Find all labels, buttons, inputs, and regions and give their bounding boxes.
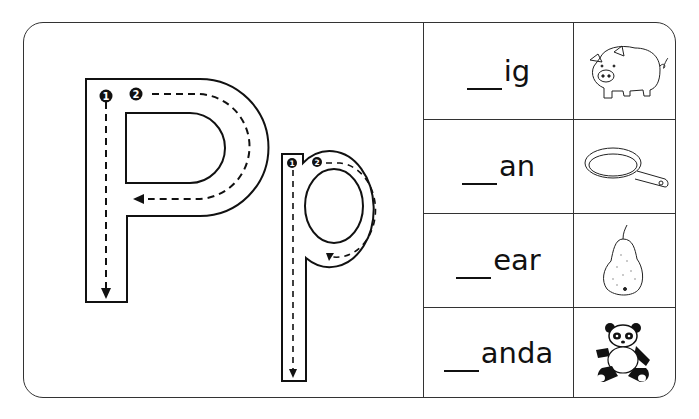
pig-icon [580,36,670,106]
arrow-down-icon [101,288,111,299]
picture-cell-pan [574,120,676,213]
word-cell-pear: ear [424,214,573,307]
picture-cell-pig [574,23,676,119]
svg-text:2: 2 [314,158,319,167]
stroke-number-2-icon: 2 [130,88,143,101]
arrow-down-small-icon [326,253,334,261]
picture-cell-panda [574,308,676,398]
pear-icon [595,221,655,301]
lowercase-p-outline [282,151,374,381]
word-suffix: anda [481,339,553,368]
word-suffix: ig [504,57,530,86]
word-cell-panda: anda [424,308,573,398]
stroke-number-1-icon: 1 [100,90,113,103]
svg-text:1: 1 [103,91,110,102]
stroke-number-1-icon: 1 [287,158,297,168]
svg-text:1: 1 [289,159,294,168]
picture-cell-pear [574,214,676,307]
svg-text:2: 2 [133,89,140,100]
answer-blank[interactable] [444,369,479,372]
word-suffix: an [499,152,535,181]
uppercase-p-outline [86,79,268,302]
stroke-number-2-icon: 2 [312,157,322,167]
word-cell-pan: an [424,120,573,213]
word-cell-pig: ig [424,23,573,119]
frying-pan-icon [577,137,673,197]
answer-blank[interactable] [456,276,491,279]
arrow-left-icon [133,194,144,204]
panda-icon [590,318,660,388]
answer-blank[interactable] [467,87,502,90]
word-suffix: ear [493,246,541,275]
answer-blank[interactable] [462,182,497,185]
arrow-down-icon [289,369,297,378]
